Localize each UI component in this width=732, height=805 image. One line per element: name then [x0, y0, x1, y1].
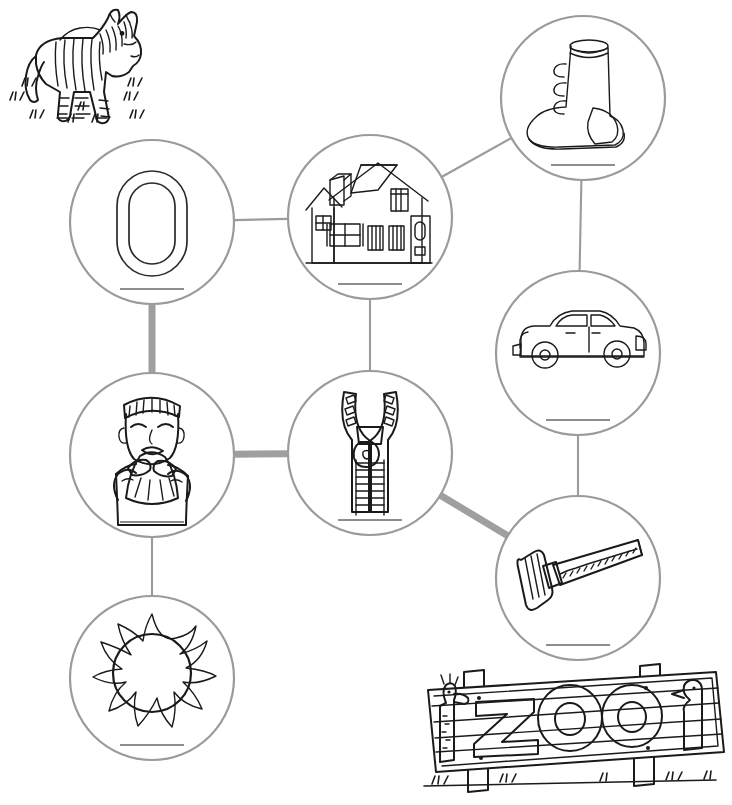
- zoo-sign-illustration: [424, 664, 724, 792]
- worksheet-canvas: [0, 0, 732, 805]
- decoration-layer: [0, 0, 732, 805]
- zebra-illustration: [10, 10, 144, 123]
